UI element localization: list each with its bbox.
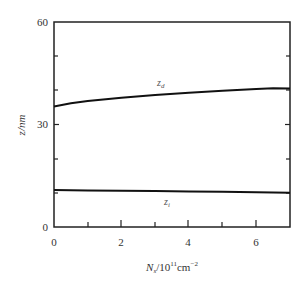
x-tick-label-4: 4 (185, 236, 191, 248)
y-tick-label-30: 30 (37, 118, 49, 130)
series-zi-label: zi (163, 196, 170, 209)
series-zd-line (54, 88, 290, 106)
plot-frame (54, 22, 290, 227)
series-zd-label: zd (156, 77, 165, 90)
x-axis-label: Ns/1011cm−2 (145, 260, 198, 275)
x-tick-label-0: 0 (51, 236, 57, 248)
x-ticks (88, 220, 256, 227)
x-tick-label-6: 6 (253, 236, 259, 248)
y-ticks (54, 56, 290, 193)
series-zi-line (54, 190, 290, 193)
y-axis-label: z/nm (15, 115, 27, 137)
y-tick-label-60: 60 (37, 16, 49, 28)
y-tick-label-0: 0 (43, 221, 49, 233)
chart: 60 30 0 0 2 4 6 z/nm Ns/1011cm−2 zd zi (0, 0, 307, 286)
x-tick-label-2: 2 (118, 236, 124, 248)
